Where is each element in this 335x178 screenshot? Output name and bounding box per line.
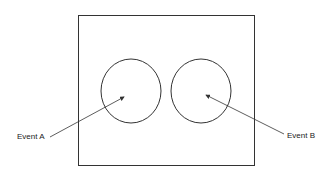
event-b-circle (171, 59, 231, 123)
venn-diagram (0, 0, 335, 178)
event-b-label: Event B (287, 131, 315, 140)
event-a-circle (101, 59, 161, 123)
event-b-arrow (206, 95, 284, 134)
event-a-label: Event A (17, 132, 45, 141)
sample-space-rectangle (79, 16, 255, 166)
